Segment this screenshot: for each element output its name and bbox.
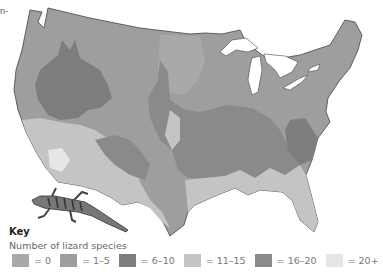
legend-item-20-plus: = 20+ <box>326 254 379 267</box>
key-subtitle: Number of lizard species <box>9 240 127 251</box>
legend-item-11-15: = 11–15 <box>184 254 246 267</box>
legend-label: = 6–10 <box>141 255 175 266</box>
legend-swatch <box>184 254 201 267</box>
legend-item-1-5: = 1–5 <box>60 254 110 267</box>
legend-swatch <box>12 254 29 267</box>
legend-swatch <box>119 254 136 267</box>
legend-label: = 11–15 <box>206 255 246 266</box>
legend-swatch <box>255 254 272 267</box>
legend-item-0: = 0 <box>12 254 51 267</box>
legend-swatch <box>60 254 77 267</box>
key-title: Key <box>9 226 30 237</box>
legend-item-16-20: = 16–20 <box>255 254 317 267</box>
legend-label: = 20+ <box>348 255 379 266</box>
legend-label: = 0 <box>34 255 51 266</box>
legend: = 0 = 1–5 = 6–10 = 11–15 = 16–20 = 20+ <box>12 254 383 267</box>
lizard-icon <box>30 186 130 236</box>
legend-label: = 1–5 <box>82 255 110 266</box>
legend-item-6-10: = 6–10 <box>119 254 175 267</box>
legend-label: = 16–20 <box>277 255 317 266</box>
legend-swatch <box>326 254 343 267</box>
